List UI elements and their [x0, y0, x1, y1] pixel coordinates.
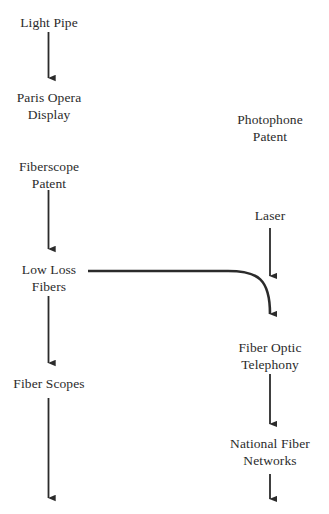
- connector-group: [49, 32, 271, 499]
- node-label-line: Display: [17, 107, 81, 124]
- connector-low-loss-to-fiber-optic-telephony: [88, 271, 270, 314]
- node-label-line: Fiber Optic: [239, 340, 302, 357]
- node-label-line: Telephony: [239, 357, 302, 374]
- node-label-line: Photophone: [237, 112, 303, 129]
- node-label-line: National Fiber: [230, 436, 310, 453]
- node-fiber-optic-telephony: Fiber OpticTelephony: [239, 340, 302, 373]
- node-fiber-scopes: Fiber Scopes: [13, 376, 84, 393]
- node-photophone-patent: PhotophonePatent: [237, 112, 303, 145]
- node-laser: Laser: [255, 208, 285, 225]
- node-fiberscope-patent: FiberscopePatent: [19, 159, 79, 192]
- node-light-pipe: Light Pipe: [20, 15, 78, 32]
- node-label-line: Paris Opera: [17, 90, 81, 107]
- node-label-line: Fiber Scopes: [13, 376, 84, 393]
- node-label-line: Patent: [19, 176, 79, 193]
- node-label-line: Light Pipe: [20, 15, 78, 32]
- node-label-line: Fiberscope: [19, 159, 79, 176]
- node-label-line: Patent: [237, 129, 303, 146]
- node-label-line: Fibers: [22, 279, 76, 296]
- node-national-fiber-networks: National FiberNetworks: [230, 436, 310, 469]
- node-label-line: Low Loss: [22, 262, 76, 279]
- flowchart-diagram: Light PipeParis OperaDisplayPhotophonePa…: [0, 0, 329, 514]
- node-label-line: Networks: [230, 453, 310, 470]
- node-low-loss-fibers: Low LossFibers: [22, 262, 76, 295]
- node-label-line: Laser: [255, 208, 285, 225]
- node-paris-opera-display: Paris OperaDisplay: [17, 90, 81, 123]
